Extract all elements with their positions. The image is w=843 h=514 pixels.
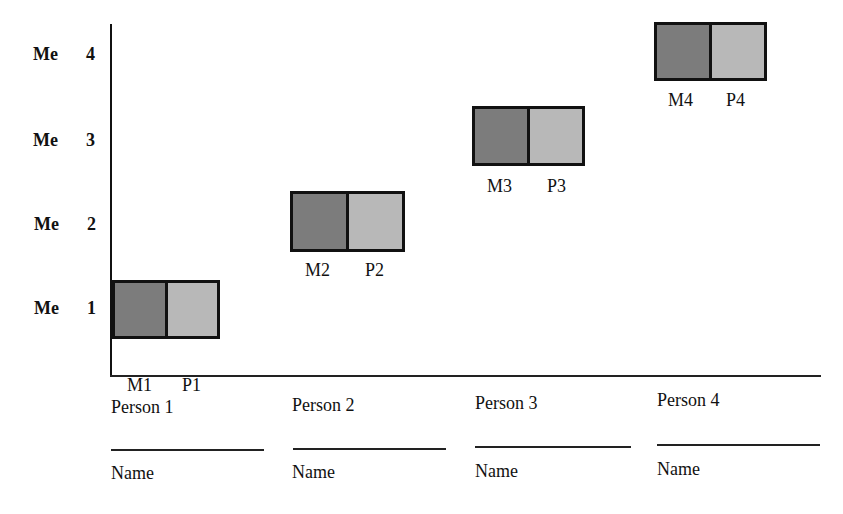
y-label-me-3: Me 3 — [33, 130, 113, 152]
y-label-prefix: Me — [33, 44, 58, 65]
m-cell-4 — [657, 25, 712, 78]
name-caption-3: Name — [475, 461, 518, 482]
m-label-1: M1 — [127, 375, 152, 396]
mp-box-1 — [112, 280, 220, 339]
name-caption-1: Name — [111, 463, 154, 484]
y-label-prefix: Me — [33, 130, 58, 151]
p-label-3: P3 — [547, 176, 566, 197]
y-label-me-4: Me 4 — [33, 44, 113, 66]
m-cell-2 — [293, 194, 349, 249]
name-caption-4: Name — [657, 459, 700, 480]
y-label-number: 2 — [87, 214, 96, 235]
person-label-4: Person 4 — [657, 390, 720, 411]
y-label-me-1: Me 1 — [34, 298, 114, 320]
p-cell-1 — [168, 283, 218, 336]
name-line-1[interactable] — [111, 449, 264, 451]
m-label-3: M3 — [487, 176, 512, 197]
y-label-prefix: Me — [34, 214, 59, 235]
y-label-number: 4 — [86, 44, 95, 65]
person-label-3: Person 3 — [475, 393, 538, 414]
y-label-me-2: Me 2 — [34, 214, 114, 236]
m-label-2: M2 — [305, 260, 330, 281]
mp-box-4 — [654, 22, 767, 81]
p-cell-3 — [530, 109, 582, 163]
p-cell-4 — [712, 25, 764, 78]
name-line-4[interactable] — [657, 444, 820, 446]
name-caption-2: Name — [292, 462, 335, 483]
y-label-number: 3 — [86, 130, 95, 151]
name-line-2[interactable] — [293, 448, 446, 450]
p-label-1: P1 — [182, 375, 201, 396]
m-cell-3 — [475, 109, 530, 163]
person-label-2: Person 2 — [292, 395, 355, 416]
p-label-4: P4 — [726, 90, 745, 111]
m-label-4: M4 — [668, 90, 693, 111]
y-label-prefix: Me — [34, 298, 59, 319]
m-cell-1 — [115, 283, 168, 336]
p-label-2: P2 — [365, 260, 384, 281]
p-cell-2 — [349, 194, 402, 249]
mp-box-2 — [290, 191, 405, 252]
y-label-number: 1 — [87, 298, 96, 319]
x-axis-line — [110, 375, 821, 377]
name-line-3[interactable] — [475, 446, 631, 448]
person-label-1: Person 1 — [111, 397, 174, 418]
mp-box-3 — [472, 106, 585, 166]
